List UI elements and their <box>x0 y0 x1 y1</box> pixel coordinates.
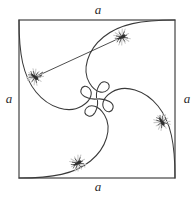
pursuit-direction-line <box>35 37 122 77</box>
bug-markers <box>25 27 172 173</box>
four-bugs-pursuit-figure <box>0 0 196 199</box>
pursuit-spiral-top-right <box>86 20 175 98</box>
side-label-left: a <box>2 92 16 105</box>
bug-left-icon <box>25 67 45 87</box>
side-label-top: a <box>0 3 196 16</box>
pursuit-spiral-bottom-right <box>97 88 175 178</box>
side-label-bottom: a <box>0 180 196 193</box>
pursuit-spiral-top-left <box>19 20 97 110</box>
bug-right-icon <box>152 112 172 132</box>
pursuit-spiral-bottom-left <box>19 100 108 178</box>
bug-bottom-icon <box>68 153 88 173</box>
side-label-right: a <box>180 92 194 105</box>
